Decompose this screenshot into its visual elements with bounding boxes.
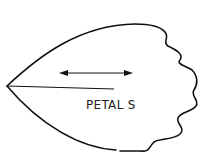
petal-outline-lower — [7, 86, 116, 150]
pattern-piece-diagram: PETAL S — [0, 0, 210, 159]
center-line — [7, 86, 114, 89]
piece-label: PETAL S — [86, 98, 136, 112]
grainline-arrow-icon — [59, 70, 133, 76]
petal-outline — [7, 24, 197, 151]
